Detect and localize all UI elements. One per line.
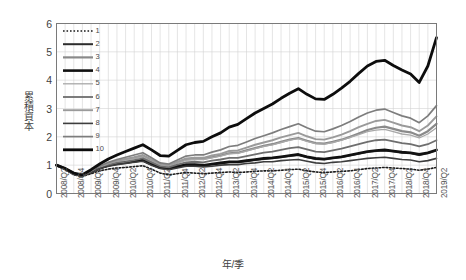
x-tick-2012-Q2: 2012/Q2 <box>198 167 207 197</box>
x-tick-2016-Q4: 2016/Q4 <box>353 167 362 197</box>
y-tick-0: 0 <box>30 189 52 199</box>
x-tick-2015-Q2: 2015/Q2 <box>302 167 311 197</box>
x-tick-2011-Q4: 2011/Q4 <box>181 168 190 197</box>
chart-container: 累積資本 年/季 0123456 2008/Q22008/Q42009/Q220… <box>0 0 466 280</box>
x-tick-2019-Q2: 2019/Q2 <box>440 167 449 197</box>
x-tick-2013-Q4: 2013/Q4 <box>250 167 259 197</box>
x-tick-2008-Q4: 2008/Q4 <box>77 167 86 197</box>
x-tick-2017-Q4: 2017/Q4 <box>388 167 397 197</box>
x-tick-2016-Q2: 2016/Q2 <box>336 167 345 197</box>
y-tick-4: 4 <box>30 75 52 85</box>
legend-label-2: 2 <box>96 40 100 48</box>
x-tick-2009-Q2: 2009/Q2 <box>94 167 103 197</box>
x-tick-2010-Q4: 2010/Q4 <box>146 167 155 197</box>
legend-label-7: 7 <box>96 106 100 114</box>
x-tick-2008-Q2: 2008/Q2 <box>60 167 69 197</box>
legend-label-5: 5 <box>96 79 100 87</box>
x-tick-2014-Q4: 2014/Q4 <box>284 167 293 197</box>
y-tick-1: 1 <box>30 160 52 170</box>
y-tick-6: 6 <box>30 19 52 29</box>
legend-label-1: 1 <box>96 27 100 35</box>
x-tick-2009-Q4: 2009/Q4 <box>112 167 121 197</box>
legend-label-9: 9 <box>96 132 100 140</box>
x-tick-2018-Q2: 2018/Q2 <box>405 167 414 197</box>
legend-swatches <box>63 31 93 150</box>
x-tick-2013-Q2: 2013/Q2 <box>232 167 241 197</box>
x-axis-title: 年/季 <box>0 256 466 271</box>
x-tick-2010-Q2: 2010/Q2 <box>129 167 138 197</box>
legend-label-8: 8 <box>96 119 100 127</box>
y-tick-3: 3 <box>30 104 52 114</box>
y-tick-2: 2 <box>30 132 52 142</box>
x-tick-2012-Q4: 2012/Q4 <box>215 167 224 197</box>
legend-label-3: 3 <box>96 53 100 61</box>
x-axis-title-text: 年/季 <box>222 259 245 270</box>
x-tick-2015-Q4: 2015/Q4 <box>319 167 328 197</box>
line-chart-plot <box>0 0 466 280</box>
x-tick-2018-Q4: 2018/Q4 <box>422 167 431 197</box>
legend-label-10: 10 <box>96 145 104 153</box>
x-tick-2014-Q2: 2014/Q2 <box>267 167 276 197</box>
x-tick-2011-Q2: 2011/Q2 <box>163 168 172 197</box>
legend-label-4: 4 <box>96 66 100 74</box>
y-tick-5: 5 <box>30 47 52 57</box>
legend-label-6: 6 <box>96 93 100 101</box>
x-tick-2017-Q2: 2017/Q2 <box>371 167 380 197</box>
